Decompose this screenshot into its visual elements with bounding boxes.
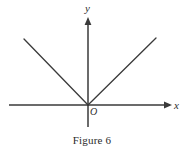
figure-container: y x O Figure 6 — [0, 0, 184, 150]
graph-canvas — [0, 0, 184, 150]
y-axis-arrowhead — [85, 17, 92, 25]
figure-caption: Figure 6 — [0, 134, 184, 147]
origin-label: O — [90, 107, 97, 117]
x-axis-arrowhead — [164, 102, 172, 109]
x-axis-label: x — [174, 100, 179, 111]
y-axis-label: y — [85, 3, 90, 14]
right-branch-line — [88, 38, 156, 105]
left-branch-line — [24, 39, 88, 105]
